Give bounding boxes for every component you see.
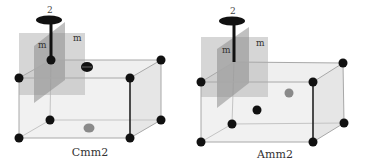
atom-corner — [15, 134, 24, 143]
mirror-label: m — [38, 40, 47, 50]
atom-corner — [340, 119, 349, 128]
twofold-axis-symbol — [219, 17, 245, 26]
atom-corner — [309, 78, 318, 87]
mirror-label: m — [222, 45, 231, 55]
atom-corner — [126, 134, 135, 143]
atom-face-center-bottom — [84, 124, 95, 133]
axis-label: 2 — [47, 5, 53, 15]
mirror-label: m — [256, 38, 265, 48]
atom-corner — [197, 138, 206, 147]
twofold-axis-symbol — [36, 16, 62, 25]
atom-corner — [15, 74, 24, 83]
atom-corner — [228, 120, 237, 129]
panel-cmm2: 2 m m Cmm2 — [15, 5, 166, 159]
atom-corner — [339, 59, 348, 68]
atom-corner — [46, 116, 55, 125]
axis-label: 2 — [230, 6, 236, 16]
caption-cmm2: Cmm2 — [72, 146, 108, 159]
atom-corner — [157, 116, 166, 125]
atom-corner — [309, 138, 318, 147]
atom-corner — [47, 56, 56, 65]
atom-face-center-gray — [285, 89, 294, 98]
space-group-diagram: 2 m m Cmm2 — [0, 0, 365, 165]
panel-amm2: 2 m m Amm2 — [197, 6, 349, 161]
atom-face-center-inner — [253, 106, 262, 115]
caption-amm2: Amm2 — [256, 148, 293, 161]
atom-corner — [126, 74, 135, 83]
atom-corner — [197, 78, 206, 87]
mirror-label: m — [73, 33, 82, 43]
atom-corner — [157, 56, 166, 65]
